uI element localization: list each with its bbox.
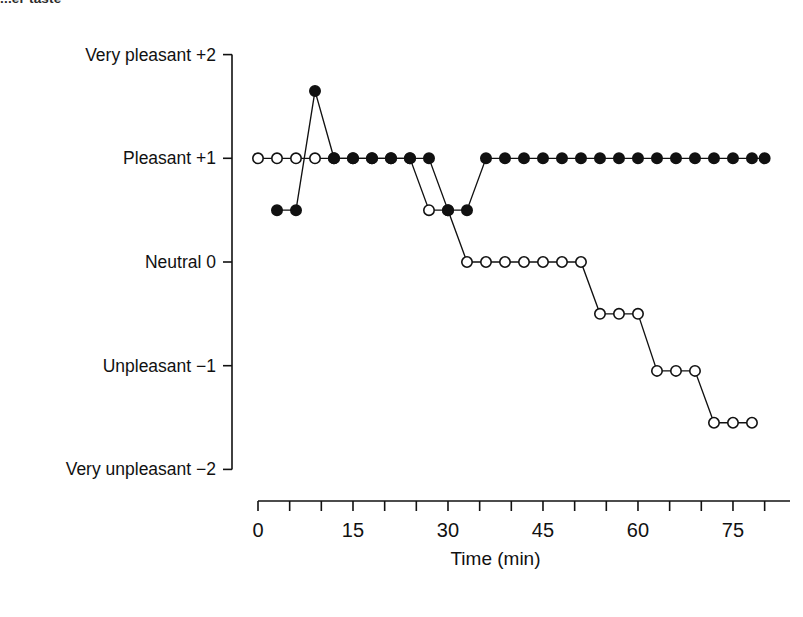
y-axis-tick-labels: Very pleasant +2Pleasant +1Neutral 0Unpl…	[66, 45, 217, 480]
closed-circle-marker	[709, 153, 719, 163]
closed-circle-marker	[462, 205, 472, 215]
open-circle-marker	[633, 309, 643, 319]
y-axis	[223, 55, 232, 470]
y-axis-tick-label: Very unpleasant −2	[66, 459, 216, 479]
open-circle-marker	[310, 153, 320, 163]
closed-circle-marker	[538, 153, 548, 163]
closed-circle-marker	[614, 153, 624, 163]
closed-circle-marker	[557, 153, 567, 163]
open-circle-marker	[500, 257, 510, 267]
x-axis-tick-label: 0	[252, 519, 263, 541]
series-line-open-circle-series	[258, 158, 752, 422]
x-axis-tick-labels: 01530456075	[252, 519, 744, 541]
y-axis-tick-label: Unpleasant −1	[103, 356, 216, 376]
open-circle-marker	[671, 366, 681, 376]
closed-circle-marker	[386, 153, 396, 163]
open-circle-marker	[272, 153, 282, 163]
x-axis-tick-label: 45	[532, 519, 554, 541]
series-line-closed-circle-series	[277, 91, 765, 210]
open-circle-marker	[690, 366, 700, 376]
y-axis-tick-label: Pleasant +1	[123, 148, 216, 168]
open-circle-marker	[519, 257, 529, 267]
closed-circle-marker	[424, 153, 434, 163]
x-axis-tick-label: 60	[627, 519, 649, 541]
open-circle-marker	[576, 257, 586, 267]
open-circle-marker	[614, 309, 624, 319]
x-axis-title: Time (min)	[450, 548, 540, 569]
closed-circle-marker	[576, 153, 586, 163]
open-circle-marker	[291, 153, 301, 163]
figure-page: ...er taste Very pleasant +2Pleasant +1N…	[0, 0, 803, 617]
y-axis-tick-label: Neutral 0	[145, 252, 216, 272]
open-circle-marker	[709, 418, 719, 428]
closed-circle-marker	[519, 153, 529, 163]
closed-circle-marker	[671, 153, 681, 163]
closed-circle-marker	[595, 153, 605, 163]
open-circle-marker	[728, 418, 738, 428]
open-circle-marker	[595, 309, 605, 319]
open-circle-marker	[652, 366, 662, 376]
closed-circle-marker	[272, 205, 282, 215]
x-axis-tick-label: 30	[437, 519, 459, 541]
closed-circle-marker	[728, 153, 738, 163]
open-circle-marker	[462, 257, 472, 267]
open-circle-marker	[538, 257, 548, 267]
open-circle-marker	[747, 418, 757, 428]
closed-circle-marker	[633, 153, 643, 163]
closed-circle-marker	[759, 153, 769, 163]
closed-circle-marker	[291, 205, 301, 215]
closed-circle-marker	[310, 86, 320, 96]
open-circle-marker	[481, 257, 491, 267]
open-circle-marker	[253, 153, 263, 163]
closed-circle-marker	[367, 153, 377, 163]
closed-circle-marker	[652, 153, 662, 163]
series-lines	[258, 91, 765, 423]
closed-circle-marker	[405, 153, 415, 163]
closed-circle-marker	[348, 153, 358, 163]
closed-circle-marker	[500, 153, 510, 163]
series-markers	[253, 86, 770, 428]
open-circle-marker	[424, 205, 434, 215]
closed-circle-marker	[443, 205, 453, 215]
closed-circle-marker	[690, 153, 700, 163]
y-axis-tick-label: Very pleasant +2	[85, 45, 216, 65]
closed-circle-marker	[329, 153, 339, 163]
x-axis-tick-label: 75	[722, 519, 744, 541]
x-axis-tick-label: 15	[342, 519, 364, 541]
closed-circle-marker	[481, 153, 491, 163]
closed-circle-marker	[747, 153, 757, 163]
open-circle-marker	[557, 257, 567, 267]
pleasantness-time-line-chart: Very pleasant +2Pleasant +1Neutral 0Unpl…	[0, 0, 803, 617]
x-axis	[258, 501, 790, 511]
